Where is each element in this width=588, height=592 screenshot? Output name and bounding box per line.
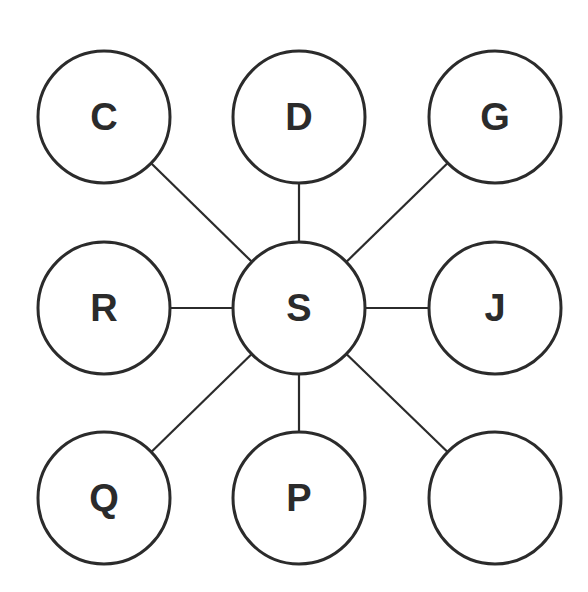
node-circle [429, 432, 561, 564]
star-diagram: SCDGRJQP [0, 0, 588, 592]
edge-S-G [346, 163, 447, 262]
node-label: Q [89, 477, 119, 519]
node-label: P [286, 477, 311, 519]
node-j: J [429, 242, 561, 374]
node-blank [429, 432, 561, 564]
node-label: S [286, 287, 311, 329]
edge-S-Q [151, 354, 251, 452]
edge-S-C [151, 163, 252, 262]
node-d: D [233, 51, 365, 183]
node-s: S [233, 242, 365, 374]
node-label: C [90, 96, 117, 138]
edge-S-blank [346, 354, 447, 452]
node-q: Q [38, 432, 170, 564]
node-label: D [285, 96, 312, 138]
node-r: R [38, 242, 170, 374]
node-g: G [429, 51, 561, 183]
node-label: G [480, 96, 510, 138]
node-label: R [90, 287, 117, 329]
node-label: J [484, 287, 505, 329]
node-c: C [38, 51, 170, 183]
nodes: SCDGRJQP [38, 51, 561, 564]
node-p: P [233, 432, 365, 564]
